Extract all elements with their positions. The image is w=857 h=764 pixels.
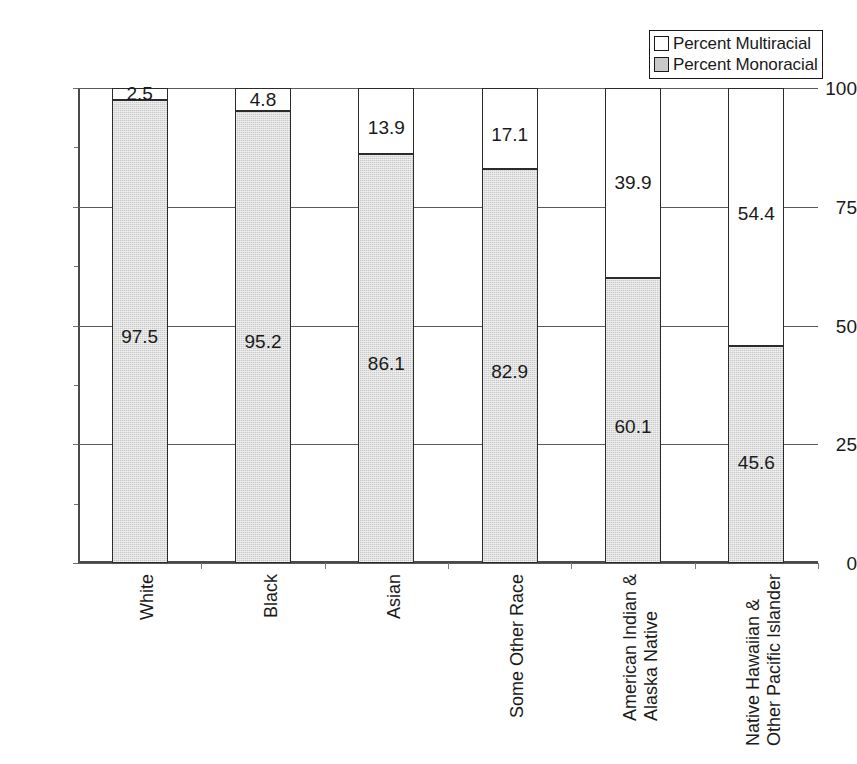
bar-value-label-monoracial: 97.5	[112, 327, 168, 346]
gridline	[78, 207, 818, 208]
bar-value-label-monoracial: 60.1	[605, 417, 661, 436]
x-axis-category-label: Native Hawaiian &Other Pacific Islander	[743, 574, 785, 746]
x-axis-category-label-line: Native Hawaiian &	[743, 574, 764, 746]
y-axis-tick-mark	[73, 88, 78, 89]
y-axis-tick-label: 75	[791, 198, 857, 217]
x-axis-category-label: White	[137, 574, 158, 620]
x-axis-category-label-line: American Indian &	[620, 574, 641, 721]
gridline	[78, 88, 818, 89]
y-axis-tick-mark	[73, 563, 78, 564]
bar-value-label-multiracial: 39.9	[605, 173, 661, 192]
y-axis-tick-label: 25	[791, 435, 857, 454]
x-axis-category-label: Asian	[384, 574, 405, 619]
legend-label-monoracial: Percent Monoracial	[673, 55, 818, 74]
legend-swatch-monoracial-icon	[654, 57, 669, 72]
x-axis-tick-mark	[448, 563, 449, 569]
x-axis-tick-mark	[695, 563, 696, 569]
bar-value-label-monoracial: 45.6	[728, 453, 784, 472]
y-axis-tick-mark	[73, 326, 78, 327]
bar-group[interactable]	[235, 88, 291, 563]
x-axis-tick-mark	[571, 563, 572, 569]
legend-item-multiracial: Percent Multiracial	[654, 33, 818, 54]
y-axis-tick-label: 50	[791, 317, 857, 336]
y-axis-minor-tick	[74, 385, 78, 386]
legend-swatch-multiracial-icon	[654, 36, 669, 51]
bar-group[interactable]	[482, 88, 538, 563]
chart-legend: Percent Multiracial Percent Monoracial	[649, 30, 823, 79]
x-axis-category-label-line: Black	[261, 574, 282, 618]
x-axis-category-label-line: Other Pacific Islander	[764, 574, 785, 746]
bar-value-label-multiracial: 2.5	[112, 84, 168, 103]
x-axis-category-label: American Indian &Alaska Native	[620, 574, 662, 721]
bar-value-label-multiracial: 4.8	[235, 90, 291, 109]
x-axis-category-label-line: White	[137, 574, 158, 620]
x-axis-category-label-line: Asian	[384, 574, 405, 619]
bar-group[interactable]	[605, 88, 661, 563]
x-axis-category-label-line: Some Other Race	[507, 574, 528, 718]
gridline	[78, 444, 818, 445]
legend-item-monoracial: Percent Monoracial	[654, 54, 818, 75]
y-axis-minor-tick	[74, 504, 78, 505]
bar-value-label-multiracial: 54.4	[728, 204, 784, 223]
bar-value-label-monoracial: 86.1	[358, 354, 414, 373]
x-axis-tick-mark	[201, 563, 202, 569]
y-axis-tick-label: 0	[791, 554, 857, 573]
bar-value-label-multiracial: 13.9	[358, 118, 414, 137]
gridline	[78, 326, 818, 327]
y-axis-tick-mark	[73, 444, 78, 445]
legend-label-multiracial: Percent Multiracial	[673, 34, 811, 53]
y-axis-minor-tick	[74, 266, 78, 267]
x-axis-category-label: Black	[261, 574, 282, 618]
x-axis-category-label-line: Alaska Native	[641, 574, 662, 721]
bar-value-label-multiracial: 17.1	[482, 125, 538, 144]
bar-group[interactable]	[728, 88, 784, 563]
y-axis-tick-label: 100	[791, 79, 857, 98]
bar-value-label-monoracial: 82.9	[482, 362, 538, 381]
bar-group[interactable]	[358, 88, 414, 563]
plot-area: 97.52.595.24.886.113.982.917.160.139.945…	[78, 88, 818, 563]
y-axis-tick-mark	[73, 207, 78, 208]
stacked-bar-chart: Percent Multiracial Percent Monoracial 9…	[0, 0, 857, 764]
x-axis-category-label: Some Other Race	[507, 574, 528, 718]
x-axis-tick-mark	[325, 563, 326, 569]
y-axis-minor-tick	[74, 147, 78, 148]
bar-value-label-monoracial: 95.2	[235, 332, 291, 351]
